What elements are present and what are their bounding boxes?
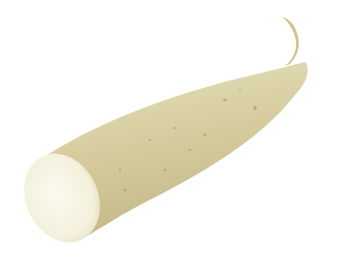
root-tip [282,17,299,66]
vegetable-illustration [0,0,341,273]
photo-stage [0,0,341,273]
